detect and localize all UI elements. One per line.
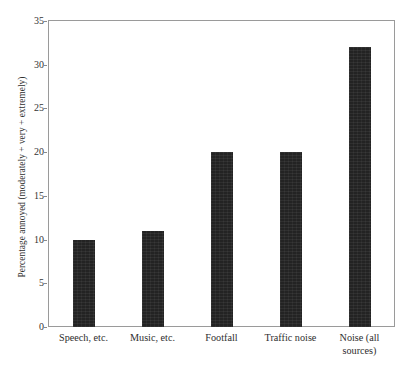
bar <box>142 231 164 327</box>
y-axis-tick-label: 5 <box>24 278 44 288</box>
y-axis-tick-mark <box>44 108 47 109</box>
y-axis-tick-label: 25 <box>24 103 44 113</box>
y-axis-tick-mark <box>44 240 47 241</box>
y-axis-tick-label: 10 <box>24 235 44 245</box>
y-axis-tick-mark <box>44 152 47 153</box>
y-axis-tick-mark <box>44 327 47 328</box>
bar <box>280 152 302 327</box>
bar <box>211 152 233 327</box>
y-axis-tick-mark <box>44 21 47 22</box>
x-axis-label-line: Noise (all <box>317 331 402 344</box>
y-axis-tick-mark <box>44 65 47 66</box>
x-axis-label-line: sources) <box>317 344 402 357</box>
y-axis-tick-label: 20 <box>24 147 44 157</box>
y-axis-tick-label: 35 <box>24 16 44 26</box>
bar <box>349 47 371 327</box>
bar <box>73 240 95 327</box>
x-axis-category-labels: Speech, etc.Music, etc.FootfallTraffic n… <box>49 331 394 375</box>
y-axis-tick-label: 30 <box>24 60 44 70</box>
bar-chart-figure: Percentage annoyed (moderately + very + … <box>0 0 415 375</box>
y-axis-tick-mark <box>44 196 47 197</box>
y-axis-tick-labels: 05101520253035 <box>22 0 44 375</box>
y-axis-tick-mark <box>44 283 47 284</box>
x-axis-category-label: Noise (allsources) <box>317 331 402 357</box>
y-axis-tick-label: 15 <box>24 191 44 201</box>
bar-series <box>49 21 394 327</box>
